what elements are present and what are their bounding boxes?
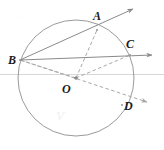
watermark-text: V <box>56 108 64 124</box>
point-marker-a <box>96 29 98 31</box>
point-label-b: B <box>8 54 16 66</box>
point-label-c: C <box>126 38 134 50</box>
point-label-o: O <box>62 83 71 95</box>
point-marker-c <box>129 54 131 56</box>
geometry-figure: A B C D O V · · · · <box>0 0 164 150</box>
point-marker-b <box>19 59 21 61</box>
point-markers-group <box>19 29 131 106</box>
solid-rays-group <box>20 9 152 60</box>
dashed-lines-group <box>20 30 130 78</box>
ray-B-through-O-to-D <box>20 60 147 102</box>
point-label-d: D <box>124 100 133 112</box>
point-marker-d <box>121 104 123 106</box>
point-label-a: A <box>93 10 101 22</box>
dashed-rays-group <box>20 60 147 102</box>
scan-artifact: · · · · <box>4 14 23 22</box>
point-marker-o <box>74 76 78 80</box>
figure-canvas <box>0 0 164 150</box>
